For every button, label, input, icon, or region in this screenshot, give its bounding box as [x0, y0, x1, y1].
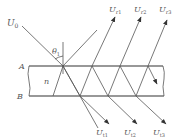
reflected-ray-0	[63, 30, 97, 66]
transmitted-label-1: Ut1	[96, 128, 108, 138]
surface-a-label: A	[18, 62, 25, 71]
slab-right-edge-wavy	[163, 66, 164, 96]
reflected-ray-1	[92, 17, 115, 66]
reflected-label-2: Ur2	[134, 5, 146, 15]
medium-label: n	[44, 77, 49, 86]
transmitted-label-3: Ut3	[153, 128, 165, 138]
reflected-label-3: Ur3	[159, 5, 171, 15]
transmitted-ray-1	[80, 96, 109, 124]
reflected-ray-2	[120, 17, 141, 66]
transmitted-ray-2	[108, 96, 137, 124]
transmitted-label-2: Ut2	[124, 128, 136, 138]
incident-label: U0	[7, 18, 19, 29]
surface-b-label: B	[16, 92, 23, 101]
transmitted-ray-3	[136, 96, 166, 124]
incident-ray	[22, 26, 63, 66]
refracted-ray-left	[53, 66, 63, 96]
internal-reflection-path	[63, 66, 148, 96]
angle-label: θ1	[52, 47, 60, 57]
slab-left-edge	[28, 66, 30, 96]
reflected-label-1: Ur1	[109, 5, 121, 15]
reflected-ray-3	[148, 20, 167, 66]
multiple-reflection-diagram: U0 θ1 A B n Ur1 Ur2 Ur3 Ut1 Ut2 Ut3	[0, 0, 190, 140]
internal-ray-continuation	[148, 66, 157, 84]
